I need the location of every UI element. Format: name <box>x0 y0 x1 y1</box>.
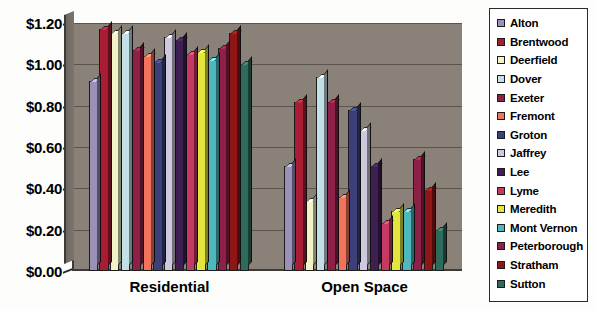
bars-layer <box>72 23 462 271</box>
y-axis-tick-label: $0.60 <box>26 139 62 156</box>
bar <box>121 33 130 271</box>
legend-swatch-icon <box>497 187 505 195</box>
legend-item: Deerfield <box>497 51 587 70</box>
legend-item: Groton <box>497 126 587 145</box>
bar <box>175 40 184 271</box>
bar-side-face <box>237 26 241 266</box>
legend-item: Dover <box>497 70 587 89</box>
bar <box>284 166 293 271</box>
y-axis-tick-label: $1.20 <box>26 15 62 32</box>
legend-item-label: Exeter <box>510 92 544 104</box>
bar-side-face <box>118 26 122 266</box>
bar-side-face <box>216 52 220 266</box>
legend-item-label: Fremont <box>510 110 555 122</box>
bar-side-face <box>432 183 436 266</box>
legend-item: Sutton <box>497 274 587 293</box>
bar <box>186 54 195 271</box>
bar <box>370 166 379 271</box>
bar-side-face <box>194 46 198 266</box>
legend-item: Alton <box>497 14 587 33</box>
bar <box>89 81 98 271</box>
legend-item: Lee <box>497 163 587 182</box>
y-axis: $0.00$0.20$0.40$0.60$0.80$1.00$1.20 <box>0 0 68 310</box>
bar-side-face <box>183 32 187 266</box>
legend-item-label: Sutton <box>510 278 545 290</box>
legend-item-label: Stratham <box>510 259 558 271</box>
bar-side-face <box>140 42 144 266</box>
legend-swatch-icon <box>497 224 505 232</box>
y-axis-tick-label: $0.20 <box>26 221 62 238</box>
legend-swatch-icon <box>497 112 505 120</box>
legend-item-label: Meredith <box>510 203 556 215</box>
bar-side-face <box>367 123 371 266</box>
bar-side-face <box>324 69 328 266</box>
y-axis-tick-label: $1.00 <box>26 56 62 73</box>
bar-side-face <box>97 73 101 266</box>
y-axis-tick-mark <box>63 268 72 274</box>
legend-item-label: Peterborough <box>510 240 583 252</box>
bar-side-face <box>292 158 296 266</box>
legend: AltonBrentwoodDeerfieldDoverExeterFremon… <box>489 8 588 302</box>
legend-item: Mont Vernon <box>497 219 587 238</box>
legend-item: Exeter <box>497 88 587 107</box>
bar <box>327 102 336 271</box>
legend-item: Meredith <box>497 200 587 219</box>
legend-item-label: Lyme <box>510 185 539 197</box>
bar-side-face <box>129 26 133 266</box>
legend-swatch-icon <box>497 205 505 213</box>
legend-item-label: Jaffrey <box>510 147 546 159</box>
bar-side-face <box>389 216 393 266</box>
legend-swatch-icon <box>497 56 505 64</box>
legend-swatch-icon <box>497 242 505 250</box>
bar-side-face <box>248 57 252 266</box>
y-axis-tick-label: $0.80 <box>26 97 62 114</box>
legend-item-label: Deerfield <box>510 54 557 66</box>
bar-side-face <box>357 102 361 266</box>
bar-side-face <box>313 193 317 266</box>
bar <box>316 77 325 271</box>
bar-side-face <box>411 203 415 266</box>
bar <box>435 230 444 271</box>
legend-item: Peterborough <box>497 237 587 256</box>
bar-side-face <box>108 21 112 266</box>
legend-swatch-icon <box>497 75 505 83</box>
legend-item-label: Alton <box>510 17 538 29</box>
legend-swatch-icon <box>497 280 505 288</box>
legend-swatch-icon <box>497 19 505 27</box>
bar-side-face <box>151 48 155 266</box>
bar-side-face <box>172 30 176 266</box>
legend-item-label: Lee <box>510 166 529 178</box>
bar-side-face <box>443 222 447 266</box>
bar <box>424 190 433 271</box>
legend-item-label: Brentwood <box>510 36 568 48</box>
legend-swatch-icon <box>497 261 505 269</box>
bar-side-face <box>335 94 339 266</box>
legend-item: Fremont <box>497 107 587 126</box>
bar <box>132 50 141 271</box>
bar-side-face <box>226 40 230 266</box>
bar-side-face <box>346 189 350 266</box>
legend-item: Lyme <box>497 181 587 200</box>
bar-chart: $0.00$0.20$0.40$0.60$0.80$1.00$1.20 Alto… <box>0 0 595 310</box>
legend-item: Stratham <box>497 256 587 275</box>
legend-item-label: Groton <box>510 129 547 141</box>
legend-swatch-icon <box>497 168 505 176</box>
legend-swatch-icon <box>497 94 505 102</box>
bar-side-face <box>205 44 209 266</box>
legend-item-label: Mont Vernon <box>510 222 577 234</box>
bar <box>381 223 390 271</box>
legend-swatch-icon <box>497 131 505 139</box>
bar-side-face <box>162 55 166 266</box>
legend-item-label: Dover <box>510 73 542 85</box>
bar-side-face <box>400 203 404 266</box>
legend-swatch-icon <box>497 38 505 46</box>
bar <box>240 64 249 271</box>
legend-item: Brentwood <box>497 33 587 52</box>
category-label: Open Space <box>321 278 408 295</box>
bar-side-face <box>378 158 382 266</box>
y-axis-tick-label: $0.40 <box>26 180 62 197</box>
legend-item: Jaffrey <box>497 144 587 163</box>
category-label: Residential <box>129 278 209 295</box>
bar-side-face <box>303 94 307 266</box>
bar <box>229 33 238 271</box>
